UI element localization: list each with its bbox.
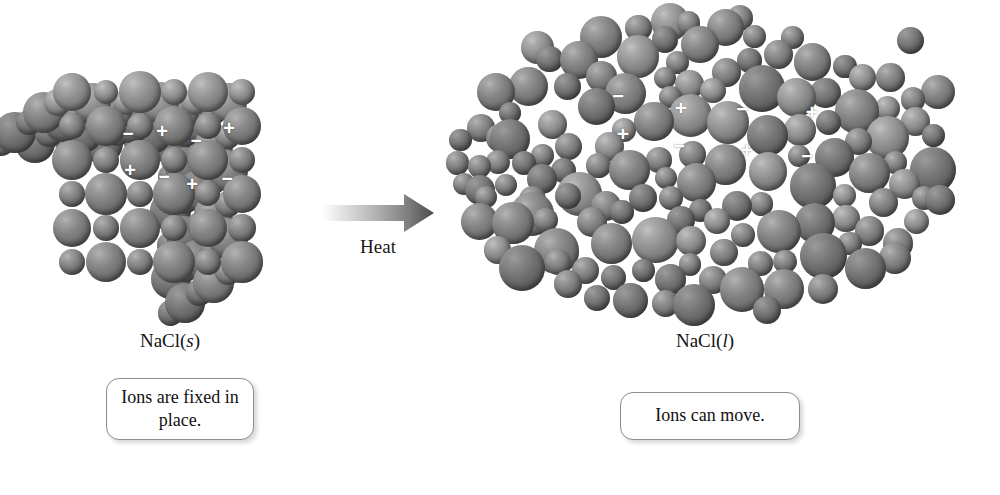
anion-charge-label: −	[158, 167, 169, 186]
ion-sphere	[120, 208, 160, 248]
ion-sphere	[613, 283, 648, 318]
cation-charge-label: +	[186, 174, 198, 194]
liquid-caption-text: Ions can move.	[655, 404, 764, 427]
heat-arrow-label: Heat	[318, 236, 438, 258]
anion-charge-label: −	[190, 131, 201, 150]
anion-charge-label: −	[612, 86, 624, 106]
cation-charge-label: +	[124, 160, 136, 180]
ion-sphere	[536, 46, 562, 72]
ion-sphere	[747, 115, 788, 156]
ion-sphere	[59, 181, 84, 206]
ion-sphere	[86, 242, 126, 282]
ion-sphere	[610, 200, 634, 224]
ion-sphere	[921, 75, 955, 109]
ion-sphere	[849, 64, 876, 91]
ion-sphere	[790, 163, 835, 208]
ion-sphere	[188, 72, 228, 112]
ion-sphere	[85, 173, 127, 215]
liquid-state-paren: )	[728, 330, 734, 351]
ion-sphere	[816, 110, 841, 135]
liquid-state-label: NaCl(l)	[590, 330, 820, 352]
ion-sphere	[86, 106, 125, 145]
ion-sphere	[59, 249, 85, 275]
ion-sphere	[897, 27, 924, 54]
solid-state-paren: )	[194, 330, 200, 351]
ion-sphere	[794, 43, 832, 81]
ion-sphere	[876, 63, 905, 92]
ion-sphere	[676, 226, 706, 256]
solid-caption-box: Ions are fixed in place.	[106, 378, 254, 440]
ion-sphere	[449, 129, 472, 152]
heat-arrow	[318, 190, 438, 236]
ion-sphere	[764, 40, 793, 69]
ion-sphere	[584, 285, 610, 311]
ion-sphere	[509, 67, 548, 106]
anion-charge-label: −	[801, 146, 813, 166]
ion-sphere	[617, 35, 659, 77]
ion-sphere	[228, 214, 255, 241]
ion-sphere	[554, 73, 581, 100]
ion-sphere	[710, 239, 737, 266]
ion-sphere	[93, 215, 118, 240]
solid-state-text: NaCl(	[140, 330, 186, 351]
ion-sphere	[591, 223, 632, 264]
ion-sphere	[499, 245, 545, 291]
ion-sphere	[119, 71, 161, 113]
cation-charge-label: +	[617, 123, 629, 144]
cation-charge-label: +	[741, 139, 753, 160]
ion-sphere	[673, 284, 715, 326]
ion-sphere	[869, 188, 898, 217]
anion-charge-label: −	[122, 124, 133, 143]
ion-sphere	[229, 147, 255, 173]
ion-sphere	[808, 274, 838, 304]
ion-sphere	[229, 79, 255, 105]
ion-sphere	[833, 184, 856, 207]
cation-charge-label: +	[156, 121, 168, 141]
liquid-caption-box: Ions can move.	[620, 392, 800, 440]
ion-sphere	[554, 270, 582, 298]
ion-sphere	[446, 151, 470, 175]
liquid-state-text: NaCl(	[676, 330, 722, 351]
solid-state-phase: s	[186, 330, 193, 351]
ion-sphere	[632, 217, 679, 264]
solid-state-label: NaCl(s)	[55, 330, 285, 352]
ion-sphere	[845, 248, 886, 289]
anion-charge-label: −	[673, 136, 685, 156]
ion-sphere	[925, 185, 955, 215]
ion-sphere	[800, 233, 846, 279]
anion-charge-label: −	[221, 169, 232, 188]
ion-sphere	[749, 152, 788, 191]
cation-charge-label: +	[806, 101, 818, 122]
ion-sphere	[634, 102, 674, 142]
ion-sphere	[753, 296, 781, 324]
solid-caption-text: Ions are fixed in place.	[117, 386, 243, 432]
ion-sphere	[59, 113, 85, 139]
ion-sphere	[221, 241, 262, 282]
ion-sphere	[93, 147, 119, 173]
cation-charge-label: +	[675, 97, 687, 118]
anion-charge-label: −	[736, 99, 748, 119]
ion-sphere	[153, 241, 194, 282]
ion-sphere	[127, 181, 152, 206]
cation-charge-label: +	[223, 118, 235, 138]
figure-canvas: −+−++−+− NaCl(s) Ions are fixed in place…	[0, 0, 1000, 495]
ion-sphere	[555, 183, 581, 209]
